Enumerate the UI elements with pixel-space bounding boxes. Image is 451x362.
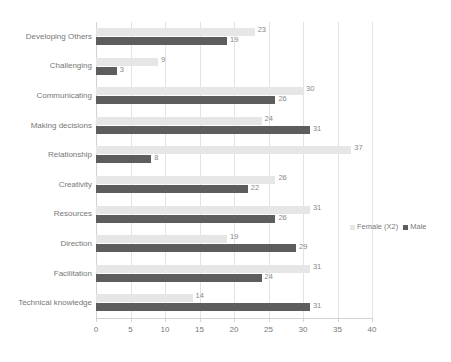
x-axis-tick [372,318,373,322]
bar-group: 3124 [96,259,372,289]
category-label: Direction [4,239,92,249]
bar-value-label-male: 24 [265,273,273,281]
x-axis-tick-label: 10 [153,325,177,335]
x-axis-tick-label: 40 [360,325,384,335]
bar-value-label-female: 23 [258,26,266,34]
bar-value-label-male: 26 [278,214,286,222]
bar-value-label-female: 31 [313,263,321,271]
legend-label: Male [410,222,426,232]
bar-male [96,244,296,252]
plot-area: 2319933026243137826223126192931241431 [96,22,372,318]
legend-item[interactable]: Female (X2) [350,222,398,232]
bar-group: 3126 [96,200,372,230]
legend-item[interactable]: Male [403,222,426,232]
bar-male [96,303,310,311]
bar-value-label-female: 37 [354,144,362,152]
category-label: Technical knowledge [4,298,92,308]
bar-group: 3026 [96,81,372,111]
bar-value-label-male: 19 [230,36,238,44]
bar-male [96,215,275,223]
x-axis-tick-label: 25 [257,325,281,335]
x-axis-tick-label: 5 [119,325,143,335]
x-axis-tick-label: 0 [84,325,108,335]
bar-female [96,58,158,66]
category-label: Making decisions [4,121,92,131]
bar-group: 1431 [96,288,372,318]
category-label: Resources [4,209,92,219]
bar-value-label-female: 31 [313,204,321,212]
bar-value-label-female: 9 [161,56,165,64]
bar-value-label-male: 26 [278,95,286,103]
x-axis-tick [165,318,166,322]
x-axis-tick-label: 30 [291,325,315,335]
category-label: Facilitation [4,269,92,279]
bar-value-label-male: 8 [154,154,158,162]
x-axis-tick [131,318,132,322]
category-label: Communicating [4,91,92,101]
x-axis-tick [269,318,270,322]
bar-female [96,176,275,184]
category-label: Challenging [4,61,92,71]
legend-swatch-icon [403,225,408,230]
bar-female [96,294,193,302]
bar-value-label-male: 3 [120,66,124,74]
bar-value-label-male: 31 [313,302,321,310]
x-axis-tick-label: 20 [222,325,246,335]
bar-male [96,96,275,104]
bar-group: 2622 [96,170,372,200]
bar-value-label-female: 24 [265,115,273,123]
x-axis-tick [303,318,304,322]
bar-value-label-male: 22 [251,184,259,192]
bar-value-label-male: 29 [299,243,307,251]
bar-value-label-female: 14 [196,292,204,300]
x-axis-tick [234,318,235,322]
x-axis-tick [200,318,201,322]
legend-label: Female (X2) [357,222,398,232]
bar-group: 2319 [96,22,372,52]
bar-value-label-female: 26 [278,174,286,182]
bar-value-label-male: 31 [313,125,321,133]
chart-legend: Female (X2)Male [350,222,427,232]
gridline [372,22,373,318]
bar-value-label-female: 30 [306,85,314,93]
bar-male [96,274,262,282]
bar-female [96,265,310,273]
category-label: Creativity [4,180,92,190]
x-axis-tick [96,318,97,322]
bar-female [96,117,262,125]
bar-male [96,37,227,45]
bar-group: 1929 [96,229,372,259]
bar-male [96,126,310,134]
bar-value-label-female: 19 [230,233,238,241]
bar-female [96,146,351,154]
category-label: Relationship [4,150,92,160]
bar-group: 2431 [96,111,372,141]
bar-group: 93 [96,52,372,82]
category-label: Developing Others [4,32,92,42]
x-axis-tick [338,318,339,322]
bar-male [96,67,117,75]
bar-female [96,235,227,243]
bar-male [96,185,248,193]
bar-group: 378 [96,140,372,170]
bar-male [96,155,151,163]
x-axis-tick-label: 15 [188,325,212,335]
x-axis-tick-label: 35 [326,325,350,335]
bar-female [96,87,303,95]
legend-swatch-icon [350,225,355,230]
category-axis-labels: Developing OthersChallengingCommunicatin… [0,22,92,318]
bar-chart: Developing OthersChallengingCommunicatin… [0,0,451,362]
